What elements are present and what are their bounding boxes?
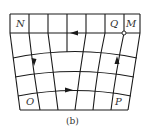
grid-col-7 [128, 33, 140, 110]
label-m: M [125, 18, 137, 29]
point-marker-icon [122, 31, 126, 35]
arrow-left-icon [70, 31, 78, 36]
label-p: P [114, 96, 122, 107]
grid-col-0 [10, 33, 20, 110]
arrow-right-icon [65, 88, 73, 93]
grid-col-5 [93, 33, 105, 110]
label-o: O [26, 96, 34, 107]
figure-caption: (b) [66, 116, 79, 126]
label-q: Q [110, 18, 118, 29]
label-n: N [15, 18, 26, 29]
distorted-grid-figure: N Q M O P (b) [0, 0, 150, 134]
